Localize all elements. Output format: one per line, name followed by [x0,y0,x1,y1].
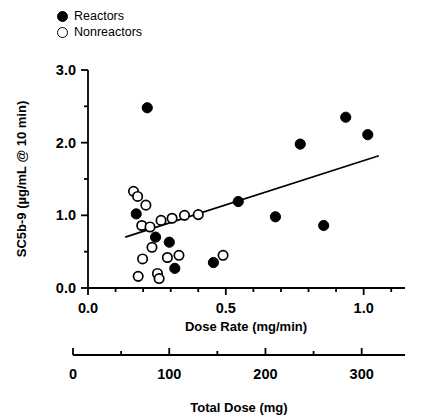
plot-canvas: 0.01.02.03.0 0.00.51.0 SC5b-9 (µg/mL @ 1… [0,0,422,417]
x-axis-tick-labels: 0.00.51.0 [78,300,374,316]
secondary-axis-tick-labels: 0100200300 [69,366,374,382]
data-point-reactor [295,139,305,149]
data-point-reactor [150,232,160,242]
secondary-tick-label: 0 [69,366,77,382]
legend-item-reactors: Reactors [57,8,142,24]
data-point-nonreactor [194,210,203,219]
data-point-nonreactor [138,254,147,263]
data-point-reactor [270,212,280,222]
y-tick-label: 1.0 [56,207,76,223]
data-point-reactor [363,130,373,140]
y-axis-tick-labels: 0.01.02.03.0 [56,62,76,296]
legend-label-reactors: Reactors [74,8,124,24]
secondary-axis-title: Total Dose (mg) [190,400,287,415]
data-point-reactor [131,209,141,219]
data-point-nonreactor [167,214,176,223]
y-tick-label: 0.0 [56,280,76,296]
data-point-nonreactor [141,200,150,209]
filled-circle-icon [57,11,68,22]
data-point-nonreactor [163,253,172,262]
secondary-tick-label: 100 [157,366,181,382]
data-point-reactor [164,237,174,247]
x-axis-title: Dose Rate (mg/min) [185,319,307,334]
data-point-reactor [233,196,243,206]
data-point-nonreactor [154,274,163,283]
legend-label-nonreactors: Nonreactors [74,24,142,40]
data-point-nonreactor [218,251,227,260]
data-point-nonreactor [180,211,189,220]
y-axis-title: SC5b-9 (µg/mL @ 10 min) [14,101,29,257]
data-point-reactor [319,220,329,230]
y-tick-label: 3.0 [56,62,76,78]
x-tick-label: 0.0 [78,300,98,316]
data-point-nonreactor [174,251,183,260]
data-point-nonreactor [133,192,142,201]
y-tick-label: 2.0 [56,135,76,151]
data-point-reactor [142,103,152,113]
series-reactors-points [131,103,373,274]
x-axis-ticks [88,288,391,295]
y-axis-ticks [81,70,88,288]
scatter-plot-figure: Reactors Nonreactors 0.01.02.03.0 0.00.5… [0,0,422,417]
secondary-tick-label: 300 [350,366,374,382]
legend-item-nonreactors: Nonreactors [57,24,142,40]
data-point-nonreactor [133,272,142,281]
x-tick-label: 1.0 [354,300,374,316]
data-point-reactor [170,263,180,273]
chart-legend: Reactors Nonreactors [57,8,142,40]
data-point-reactor [208,257,218,267]
data-point-nonreactor [156,216,165,225]
data-point-nonreactor [147,243,156,252]
data-point-reactor [341,112,351,122]
secondary-axis-ticks [73,348,362,355]
open-circle-icon [57,27,68,38]
data-point-nonreactor [145,222,154,231]
secondary-tick-label: 200 [253,366,277,382]
x-tick-label: 0.5 [216,300,236,316]
